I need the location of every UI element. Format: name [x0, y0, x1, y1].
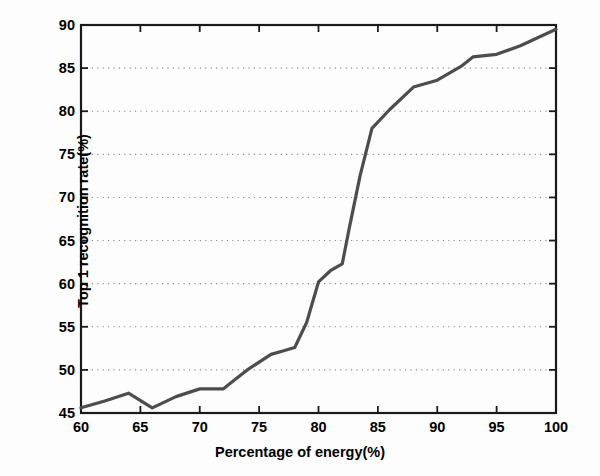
y-tick-label: 80 — [59, 103, 75, 119]
axis-frame — [81, 25, 556, 413]
y-tick-label: 65 — [59, 233, 75, 249]
y-axis-title: Top 1 recognition rate(%) — [75, 26, 91, 416]
x-tick-label: 70 — [192, 419, 208, 435]
y-tick-label: 55 — [59, 319, 75, 335]
x-tick-label: 90 — [429, 419, 445, 435]
chart-figure: 6065707580859095100 45505560657075808590… — [0, 0, 600, 476]
y-tick-label: 85 — [59, 60, 75, 76]
x-tick-label: 75 — [251, 419, 267, 435]
x-tick-label: 85 — [370, 419, 386, 435]
data-series-group — [81, 29, 556, 408]
x-tick-label: 80 — [310, 419, 326, 435]
y-tick-label: 50 — [59, 362, 75, 378]
x-tick-label: 60 — [73, 419, 89, 435]
x-tick-label: 95 — [489, 419, 505, 435]
y-tick-label: 75 — [59, 146, 75, 162]
data-line-top1-recognition-rate — [81, 29, 556, 408]
x-tick-label: 100 — [544, 419, 568, 435]
x-tick-label: 65 — [132, 419, 148, 435]
y-tick-label: 70 — [59, 189, 75, 205]
plot-border — [81, 25, 556, 413]
tick-marks — [81, 25, 556, 413]
y-tick-label: 45 — [59, 405, 75, 421]
y-tick-label: 90 — [59, 17, 75, 33]
y-tick-label: 60 — [59, 276, 75, 292]
grid-lines — [81, 68, 556, 370]
x-axis-title: Percentage of energy(%) — [0, 444, 600, 460]
